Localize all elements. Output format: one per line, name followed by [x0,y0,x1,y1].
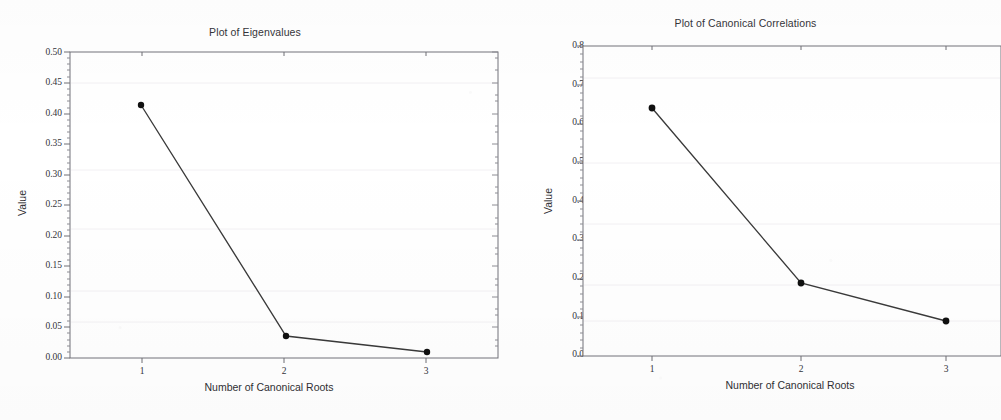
y-axis-major-ticks [64,52,70,358]
data-point [138,102,144,108]
data-point [798,280,805,287]
data-point [943,318,950,325]
figure-eigenvalues: Plot of Eigenvalues Value Number of Cano… [0,0,510,420]
figure-canonical-correlations: Plot of Canonical Correlations Value Num… [510,0,1001,420]
data-point [283,333,289,339]
plot-area-canonical-correlations [510,0,1001,420]
data-point [649,105,656,112]
data-point [424,349,430,355]
plot-area-eigenvalues [0,0,510,420]
